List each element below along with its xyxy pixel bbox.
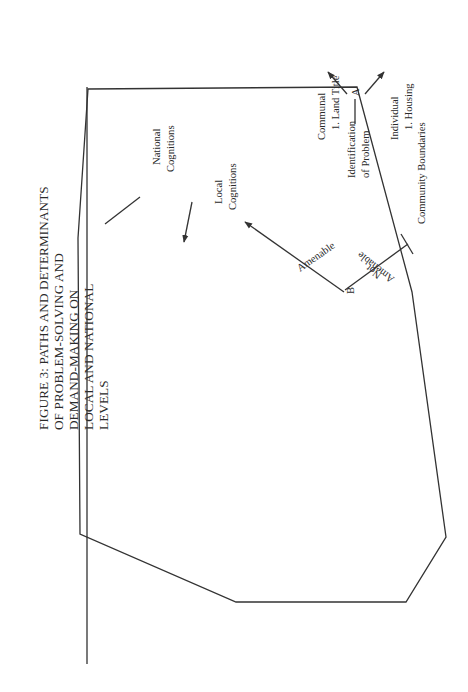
svg-text:Amenable: Amenable	[295, 239, 337, 273]
svg-text:National: National	[151, 128, 162, 165]
svg-text:Cognitions: Cognitions	[227, 163, 238, 210]
figure-rotated-stage: FIGURE 3: PATHS AND DETERMINANTS OF PROB…	[0, 0, 468, 692]
svg-text:LOCAL AND NATIONAL: LOCAL AND NATIONAL	[81, 284, 96, 430]
svg-text:OF PROBLEM-SOLVING AND: OF PROBLEM-SOLVING AND	[51, 253, 66, 430]
amenable-path	[245, 222, 344, 292]
svg-text:FIGURE 3: PATHS AND DETERMINAN: FIGURE 3: PATHS AND DETERMINANTS	[36, 186, 51, 430]
not-amenable-stop	[401, 234, 413, 254]
national-cognitions-arrow	[105, 197, 140, 224]
svg-text:Communal: Communal	[316, 93, 327, 140]
node-a: A	[350, 88, 361, 96]
community-boundaries-label: Community Boundaries	[416, 122, 427, 224]
svg-text:of Problem: of Problem	[360, 130, 371, 178]
svg-text:1. Land Title: 1. Land Title	[330, 75, 341, 130]
svg-text:Local: Local	[213, 180, 224, 204]
svg-text:1. Housing: 1. Housing	[403, 83, 414, 130]
figure-title: FIGURE 3: PATHS AND DETERMINANTS OF PROB…	[36, 186, 111, 430]
community-boundary-final	[78, 87, 446, 602]
node-b: B	[345, 287, 356, 294]
arrow-to-individual	[365, 72, 384, 94]
svg-text:Cognitions: Cognitions	[165, 125, 176, 172]
local-cognitions-arrow	[184, 202, 192, 242]
svg-text:LEVELS: LEVELS	[96, 380, 111, 430]
svg-text:Identification: Identification	[346, 120, 357, 178]
paths-determinants-diagram: FIGURE 3: PATHS AND DETERMINANTS OF PROB…	[0, 0, 468, 692]
svg-text:Individual: Individual	[389, 96, 400, 140]
